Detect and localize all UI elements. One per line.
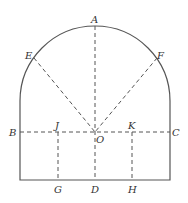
- label-E: E: [24, 50, 33, 61]
- tunnel-diagram: A E F B C J K O G D H: [0, 0, 188, 203]
- label-K: K: [127, 120, 136, 131]
- line-FO: [95, 58, 157, 132]
- label-B: B: [8, 127, 16, 138]
- label-D: D: [90, 184, 99, 195]
- label-J: J: [53, 120, 60, 131]
- line-EO: [34, 58, 95, 132]
- label-F: F: [156, 50, 165, 61]
- label-H: H: [127, 184, 137, 195]
- label-C: C: [172, 127, 180, 138]
- label-A: A: [90, 14, 98, 25]
- label-O: O: [96, 134, 104, 145]
- label-G: G: [54, 184, 62, 195]
